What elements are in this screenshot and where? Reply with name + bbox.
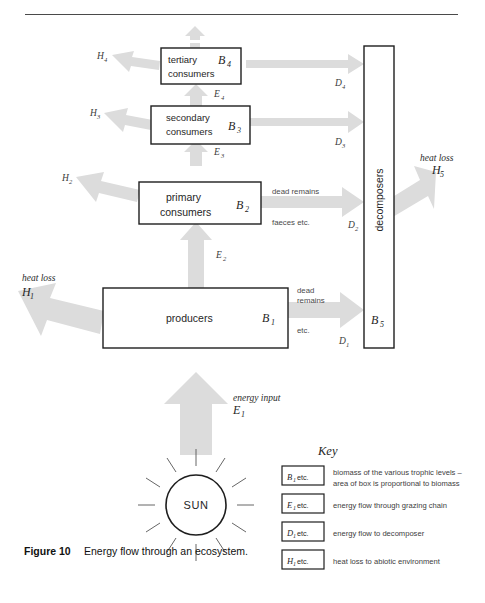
key-symbol-e-etc: etc. (297, 501, 309, 510)
heat-loss-arrow-h2 (76, 172, 140, 202)
key-desc-d-line1: energy flow to decomposer (333, 529, 425, 538)
trophic-box-tertiary-consumers[interactable]: tertiary consumers B 4 (161, 48, 241, 84)
decomposer-heat-loss-sub: 5 (440, 170, 444, 179)
heat-loss-label-h3-sub: 3 (96, 113, 101, 120)
heat-loss-label-h1-text: heat loss (22, 273, 56, 283)
tertiary-biomass-symbol: B (218, 53, 226, 67)
decomposer-heat-loss-label: heat loss (420, 153, 454, 163)
energy-input-arrow-e1 (164, 372, 228, 455)
diagram-canvas: E 4 E 3 E 2 energy input E 1 H 4 H (0, 0, 485, 603)
tertiary-biomass-sub: 4 (227, 60, 231, 69)
key-symbol-b: B (287, 472, 292, 482)
energy-input-sub: 1 (241, 410, 245, 419)
decomposer-arrow-d3 (250, 111, 364, 133)
decomposer-label-d4-symbol: D (334, 78, 342, 88)
heat-loss-arrow-h1 (18, 283, 104, 336)
primary-consumers-line1: primary (166, 191, 202, 203)
key-symbol-h-etc: etc. (297, 557, 309, 566)
energy-label-e2-symbol: E (215, 250, 222, 260)
energy-input-label: energy input (233, 393, 281, 403)
tertiary-consumers-line2: consumers (168, 68, 215, 79)
trophic-box-decomposers[interactable]: decomposers B 5 (364, 46, 394, 348)
key-symbol-d-sub: 1 (293, 533, 296, 539)
energy-input-symbol: E (232, 403, 241, 417)
figure-energy-flow: E 4 E 3 E 2 energy input E 1 H 4 H (0, 0, 485, 603)
decomposer-label-d2-sub: 2 (355, 225, 359, 232)
key-entry-energy-flow: E 1 etc. energy flow through grazing cha… (282, 494, 447, 513)
energy-arrow-e2 (180, 222, 212, 288)
key-desc-b-line2: area of box is proportional to biomass (333, 479, 460, 488)
figure-caption-number: Figure 10 (24, 545, 71, 557)
primary-biomass-symbol: B (236, 198, 244, 212)
tertiary-consumers-line1: tertiary (168, 54, 197, 65)
energy-label-e4-sub: 4 (221, 94, 225, 101)
key-entry-biomass: B 1 etc. biomass of the various trophic … (282, 466, 463, 488)
heat-loss-label-h2-sub: 2 (69, 178, 73, 185)
decomposer-label-d2-symbol: D (347, 220, 355, 230)
decomposer-label-d1-sub: 1 (346, 341, 349, 348)
secondary-biomass-sub: 3 (236, 126, 241, 135)
transfer-note-remains-producers: remains (297, 296, 325, 305)
producers-label: producers (166, 312, 213, 324)
producers-biomass-symbol: B (262, 311, 270, 325)
sun-label: SUN (183, 499, 208, 511)
energy-label-e3-symbol: E (213, 147, 220, 157)
primary-consumers-line2: consumers (160, 206, 211, 218)
producers-biomass-sub: 1 (271, 318, 275, 327)
decomposer-label-d3-sub: 3 (341, 142, 346, 149)
decomposer-label-d3-symbol: D (334, 137, 342, 147)
trophic-box-producers[interactable]: producers B 1 (103, 288, 288, 348)
energy-label-e4-symbol: E (213, 89, 220, 99)
energy-arrow-e4 (184, 84, 208, 108)
key-entry-decomposer-flow: D 1 etc. energy flow to decomposer (282, 522, 425, 541)
heat-loss-arrow-h4 (112, 51, 160, 72)
heat-loss-arrow-h3 (104, 108, 158, 132)
secondary-consumers-line2: consumers (166, 126, 213, 137)
key-desc-e-line1: energy flow through grazing chain (333, 501, 447, 510)
heat-loss-label-h4-sub: 4 (104, 56, 108, 63)
transfer-note-dead-producers: dead (297, 286, 314, 295)
trophic-box-secondary-consumers[interactable]: secondary consumers B 3 (151, 106, 250, 144)
decomposer-arrow-d4 (246, 54, 364, 74)
secondary-biomass-symbol: B (228, 119, 236, 133)
transfer-note-dead-remains-primary: dead remains (272, 187, 319, 196)
energy-label-e3-sub: 3 (220, 152, 225, 159)
key-symbol-b-etc: etc. (297, 473, 309, 482)
figure-caption-text: Energy flow through an ecosystem. (84, 545, 248, 557)
trophic-box-primary-consumers[interactable]: primary consumers B 2 (139, 182, 261, 224)
key-symbol-b-sub: 1 (293, 477, 296, 483)
decomposer-label-d4-sub: 4 (342, 83, 346, 90)
key-symbol-d-etc: etc. (297, 529, 309, 538)
transfer-note-etc-producers: etc. (297, 326, 310, 335)
decomposers-biomass-sub: 5 (380, 320, 384, 329)
key-symbol-e: E (286, 500, 293, 510)
decomposers-label: decomposers (373, 168, 385, 231)
key-symbol-e-sub: 1 (293, 505, 296, 511)
secondary-consumers-line1: secondary (166, 112, 210, 123)
key-entry-heat-loss: H 1 etc. heat loss to abiotic environmen… (282, 550, 441, 569)
decomposer-label-d1-symbol: D (338, 336, 346, 346)
heat-loss-label-h1-sub: 1 (30, 292, 34, 301)
key-desc-h-line1: heat loss to abiotic environment (333, 557, 441, 566)
primary-biomass-sub: 2 (245, 205, 249, 214)
decomposers-biomass-symbol: B (371, 313, 379, 327)
key-title: Key (317, 444, 338, 458)
energy-label-e2-sub: 2 (223, 255, 227, 262)
key-symbol-h-sub: 1 (293, 561, 296, 567)
key-desc-b-line1: biomass of the various trophic levels – (333, 468, 463, 477)
transfer-note-faeces-primary: faeces etc. (272, 218, 310, 227)
